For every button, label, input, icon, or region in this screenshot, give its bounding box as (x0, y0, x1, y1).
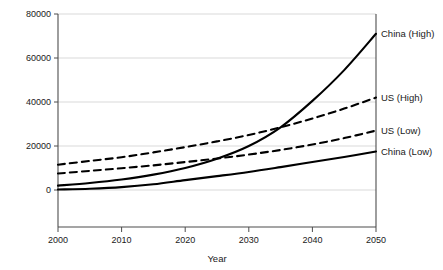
y-tick-label: 20000 (26, 141, 51, 151)
line-chart: 020000400006000080000 200020102020203020… (0, 0, 443, 270)
chart-container: 020000400006000080000 200020102020203020… (0, 0, 443, 270)
y-tick-label: 80000 (26, 9, 51, 19)
y-tick-label: 60000 (26, 53, 51, 63)
x-axis-title: Year (207, 253, 226, 264)
x-tick-label: 2010 (112, 235, 132, 245)
x-tick-label: 2030 (239, 235, 259, 245)
x-tick-label: 2000 (48, 235, 68, 245)
series-label-us-high: US (High) (381, 92, 423, 103)
y-tick-label: 0 (46, 185, 51, 195)
y-tick-label: 40000 (26, 97, 51, 107)
x-tick-label: 2040 (302, 235, 322, 245)
x-tick-label: 2050 (366, 235, 386, 245)
x-tick-label: 2020 (175, 235, 195, 245)
series-label-china-low: China (Low) (381, 146, 432, 157)
series-label-china-high: China (High) (381, 28, 434, 39)
series-label-us-low: US (Low) (381, 125, 421, 136)
